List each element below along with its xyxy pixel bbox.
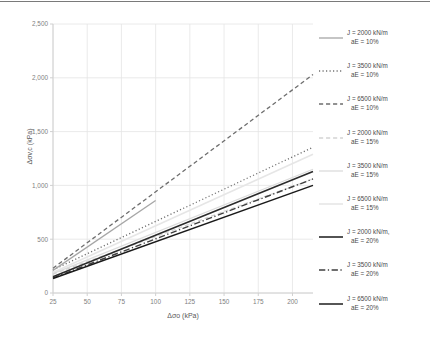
legend-label-line1: J = 2000 kN/m, [347, 227, 390, 236]
chart-legend: J = 2000 kN/maE = 10%J = 3500 kN/maE = 1… [318, 20, 428, 325]
legend-item[interactable]: J = 3500 kN/maE = 10% [318, 61, 388, 79]
legend-line-swatch [318, 162, 344, 172]
x-tick-label: 150 [219, 298, 230, 305]
legend-item[interactable]: J = 2000 kN/maE = 10% [318, 28, 388, 46]
y-tick-label: 0 [44, 289, 48, 296]
legend-label-line2: aE = 10% [351, 103, 388, 112]
y-tick-label: 2,500 [32, 20, 48, 27]
legend-label-line1: J = 6500 kN/m [347, 294, 388, 303]
legend-label-line2: aE = 20% [351, 269, 388, 278]
legend-label-block: J = 2000 kN/maE = 15% [347, 128, 388, 146]
legend-label-line2: aE = 15% [351, 170, 388, 179]
plot-area-background [53, 24, 313, 293]
legend-label-block: J = 2000 kN/maE = 10% [347, 28, 388, 46]
legend-label-line1: J = 3500 kN/m [347, 161, 388, 170]
x-tick-label: 100 [150, 298, 161, 305]
legend-line-swatch [318, 95, 344, 105]
legend-label-block: J = 3500 kN/maE = 15% [347, 161, 388, 179]
legend-line-swatch [318, 195, 344, 205]
legend-line-swatch [318, 228, 344, 238]
legend-item[interactable]: J = 3500 kN/maE = 15% [318, 161, 388, 179]
legend-item[interactable]: J = 2000 kN/maE = 15% [318, 128, 388, 146]
legend-line-swatch [318, 129, 344, 139]
legend-label-line2: aE = 20% [351, 303, 388, 312]
legend-label-line1: J = 2000 kN/m [347, 128, 388, 137]
legend-label-block: J = 3500 kN/maE = 10% [347, 61, 388, 79]
x-tick-label: 125 [185, 298, 196, 305]
legend-label-line1: J = 2000 kN/m [347, 28, 388, 37]
legend-line-swatch [318, 295, 344, 305]
legend-label-block: J = 6500 kN/maE = 10% [347, 94, 388, 112]
legend-line-swatch [318, 261, 344, 271]
legend-label-line2: aE = 20% [351, 236, 390, 245]
x-tick-label: 75 [118, 298, 126, 305]
legend-label-line2: aE = 15% [351, 203, 388, 212]
y-tick-label: 1,000 [32, 182, 48, 189]
y-tick-label: 1,500 [32, 128, 48, 135]
legend-label-line2: aE = 15% [351, 137, 388, 146]
legend-label-block: J = 3500 kN/maE = 20% [347, 260, 388, 278]
legend-label-block: J = 6500 kN/maE = 20% [347, 294, 388, 312]
legend-item[interactable]: J = 3500 kN/maE = 20% [318, 260, 388, 278]
legend-label-line1: J = 3500 kN/m [347, 260, 388, 269]
x-tick-label: 175 [253, 298, 264, 305]
y-axis-title: Δσv,c (kPa) [26, 128, 34, 164]
legend-label-block: J = 2000 kN/m,aE = 20% [347, 227, 390, 245]
y-tick-label: 500 [37, 236, 48, 243]
legend-line-swatch [318, 62, 344, 72]
x-tick-label: 25 [49, 298, 57, 305]
x-tick-label: 50 [84, 298, 92, 305]
legend-item[interactable]: J = 6500 kN/maE = 10% [318, 94, 388, 112]
legend-label-line1: J = 6500 kN/m [347, 194, 388, 203]
legend-label-line2: aE = 10% [351, 70, 388, 79]
legend-line-swatch [318, 29, 344, 39]
legend-label-block: J = 6500 kN/maE = 15% [347, 194, 388, 212]
y-tick-label: 2,000 [32, 74, 48, 81]
legend-label-line1: J = 3500 kN/m [347, 61, 388, 70]
x-axis-title: Δσo (kPa) [167, 312, 199, 320]
legend-label-line2: aE = 10% [351, 37, 388, 46]
legend-label-line1: J = 6500 kN/m [347, 94, 388, 103]
x-tick-label: 200 [287, 298, 298, 305]
chart-screenshot: 05001,0001,5002,0002,5002550751001251501… [0, 0, 430, 343]
legend-item[interactable]: J = 2000 kN/m,aE = 20% [318, 227, 390, 245]
legend-item[interactable]: J = 6500 kN/maE = 15% [318, 194, 388, 212]
legend-item[interactable]: J = 6500 kN/maE = 20% [318, 294, 388, 312]
